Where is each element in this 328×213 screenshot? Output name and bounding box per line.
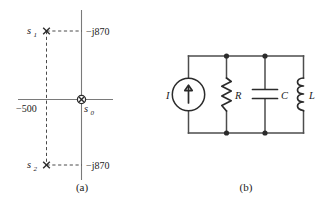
pole-label-s0-letter: s [84, 103, 88, 114]
capacitor-label: C [281, 90, 289, 101]
pole-label-s1-subscript: 1 [34, 31, 38, 39]
current-source-label: I [165, 90, 170, 101]
node-top-capacitor [262, 53, 267, 58]
resistor-symbol [222, 78, 231, 111]
real-axis-tick-label: −500 [16, 103, 37, 114]
pole-label-s0: s 0 [84, 103, 95, 117]
pole-label-s2-letter: s [27, 159, 31, 170]
pole-label-s2: s 2 [27, 159, 38, 173]
node-top-resistor [224, 53, 229, 58]
pole-label-s2-subscript: 2 [34, 165, 38, 173]
inductor-symbol [298, 78, 304, 111]
resistor-label: R [234, 90, 242, 101]
pole-label-s0-subscript: 0 [91, 109, 95, 117]
figure-container: s 1 s 2 s 0 −j870 −j870 −500 (a) [0, 0, 328, 213]
pole-plot-svg: s 1 s 2 s 0 −j870 −j870 −500 [0, 0, 164, 181]
upper-imaginary-value-label: −j870 [86, 26, 109, 37]
circuit-svg: I R C L [164, 0, 328, 181]
capacitor-symbol [253, 90, 278, 99]
inductor-label: L [308, 90, 315, 101]
current-source-symbol [172, 78, 204, 110]
caption-panel-a: (a) [0, 181, 164, 193]
node-bottom-resistor [224, 130, 229, 135]
lower-imaginary-value-label: −j870 [86, 160, 109, 171]
node-bottom-capacitor [262, 130, 267, 135]
panel-a-pole-plot: s 1 s 2 s 0 −j870 −j870 −500 (a) [0, 0, 164, 213]
caption-panel-b: (b) [164, 181, 328, 193]
panel-b-circuit: I R C L (b) [164, 0, 328, 213]
pole-label-s1-letter: s [27, 25, 31, 36]
pole-label-s1: s 1 [27, 25, 37, 39]
